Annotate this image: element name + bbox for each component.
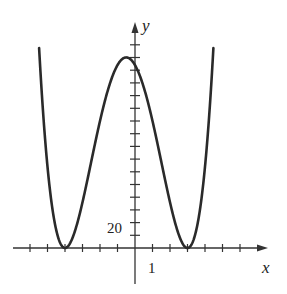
- x-tick-label-1: 1: [148, 260, 156, 276]
- y-axis-label: y: [140, 16, 150, 35]
- y-axis-arrow-icon: [132, 22, 139, 33]
- y-tick-label-20: 20: [107, 220, 122, 236]
- function-curve: [39, 48, 213, 248]
- x-axis-arrow-icon: [257, 245, 268, 252]
- chart-canvas: y x 1 20: [0, 0, 287, 294]
- x-axis-label: x: [261, 258, 270, 277]
